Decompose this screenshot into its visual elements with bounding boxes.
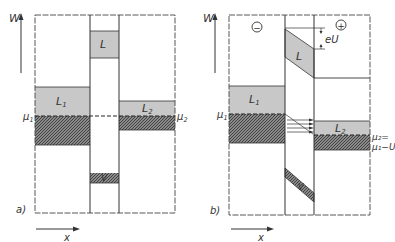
label-mu1: μ1 <box>22 111 34 124</box>
plus-sign-icon: + <box>336 20 346 31</box>
panel-a: W L1 L L2 V μ1 μ2 a) <box>9 12 188 242</box>
svg-text:+: + <box>337 21 345 31</box>
x-axis-label: x <box>257 232 264 242</box>
label-barrier-l: L <box>100 38 106 51</box>
label-barrier-l: L <box>296 50 302 63</box>
left-filled-states <box>229 114 285 143</box>
right-filled-states <box>119 116 175 130</box>
tunneling-arrows <box>285 114 314 134</box>
label-mu2-eq: μ₂= <box>371 132 389 142</box>
label-eu: eU <box>325 34 339 45</box>
svg-text:−: − <box>253 23 261 33</box>
x-axis-label: x <box>63 232 70 242</box>
w-axis-label: W <box>203 12 215 25</box>
label-mu1: μ1 <box>216 109 228 122</box>
label-mu2: μ2 <box>176 111 188 124</box>
right-filled-states <box>314 135 370 150</box>
w-axis-label: W <box>9 12 21 25</box>
x-axis-arrow-icon <box>231 227 274 232</box>
panel-b-caption: b) <box>210 205 220 216</box>
panel-a-caption: a) <box>16 204 26 215</box>
x-axis-arrow-icon <box>36 227 80 232</box>
label-mu1-minus-u: μ₁−U <box>371 142 395 152</box>
left-filled-states <box>35 116 90 145</box>
tunnel-junction-diagram: W L1 L L2 V μ1 μ2 a) <box>0 0 395 242</box>
minus-sign-icon: − <box>252 22 262 33</box>
label-v: V <box>298 183 304 192</box>
panel-b: W <box>203 12 395 242</box>
label-v: V <box>101 173 108 183</box>
